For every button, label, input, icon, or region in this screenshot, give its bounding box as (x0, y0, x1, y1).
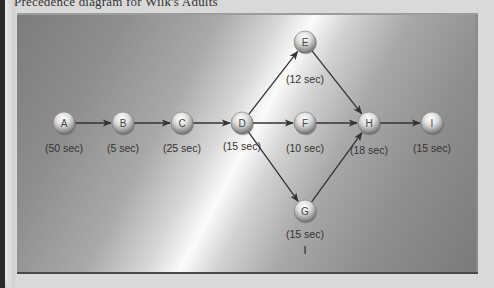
duration-label: (18 sec) (350, 144, 388, 156)
node-h: H(18 sec) (350, 112, 388, 156)
node-letter: A (61, 118, 68, 129)
node-letter: H (365, 118, 372, 129)
node-letter: F (302, 118, 308, 129)
node-c: C(25 sec) (163, 112, 201, 154)
node-letter: E (302, 37, 309, 48)
duration-label: (15 sec) (413, 142, 451, 154)
node-letter: G (301, 206, 309, 217)
text-cursor-icon: I (303, 244, 306, 256)
duration-label: (25 sec) (163, 142, 201, 154)
node-f: F(10 sec) (286, 112, 324, 154)
node-a: A(50 sec) (45, 112, 83, 154)
duration-label: (50 sec) (45, 142, 83, 154)
duration-label: (10 sec) (286, 142, 324, 154)
node-g: G(15 sec) (286, 200, 324, 240)
duration-label: (5 sec) (107, 142, 139, 154)
node-i: I(15 sec) (413, 112, 451, 154)
node-letter: D (238, 118, 245, 129)
duration-label: (15 sec) (223, 140, 261, 152)
node-letter: B (120, 118, 127, 129)
node-b: B(5 sec) (107, 112, 139, 154)
duration-label: (12 sec) (286, 73, 324, 85)
node-d: D(15 sec) (223, 112, 261, 152)
node-letter: C (178, 118, 185, 129)
node-letter: I (431, 118, 434, 129)
precedence-diagram: A(50 sec)B(5 sec)C(25 sec)D(15 sec)E(12 … (0, 0, 494, 288)
nodes-layer: A(50 sec)B(5 sec)C(25 sec)D(15 sec)E(12 … (45, 31, 451, 240)
duration-label: (15 sec) (286, 228, 324, 240)
